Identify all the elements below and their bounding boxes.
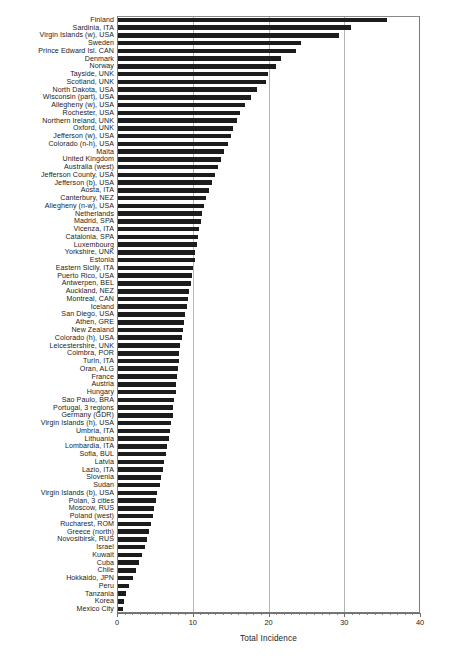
bar xyxy=(118,467,163,472)
bar-row: Allegheny (w), USA xyxy=(0,101,452,109)
bar-row: Korea xyxy=(0,597,452,605)
bar-row: Hokkaido, JPN xyxy=(0,574,452,582)
bar xyxy=(118,429,170,434)
bar-row: Netherlands xyxy=(0,210,452,218)
bar-row: Colorado (n-h), USA xyxy=(0,140,452,148)
bar xyxy=(118,41,301,46)
bar xyxy=(118,475,161,480)
bar-row: Kuwait xyxy=(0,551,452,559)
x-tick-label-20: 20 xyxy=(264,618,272,627)
bar-row: Mexico City xyxy=(0,605,452,613)
bar xyxy=(118,529,149,534)
bar-row: Jefferson (w), USA xyxy=(0,132,452,140)
bar-row: Australia (west) xyxy=(0,163,452,171)
bar-row: Montreal, CAN xyxy=(0,295,452,303)
bar xyxy=(118,591,126,596)
bar-row: Novosibirsk, RUS xyxy=(0,535,452,543)
bar xyxy=(118,584,129,589)
bar-row: Aosta, ITA xyxy=(0,187,452,195)
bar-row: Yorkshire, UNK xyxy=(0,249,452,257)
bar-row: Oxford, UNK xyxy=(0,125,452,133)
bar xyxy=(118,576,133,581)
bar-row: Madrid, SPA xyxy=(0,218,452,226)
bar xyxy=(118,111,240,116)
bar xyxy=(118,126,233,131)
bar xyxy=(118,64,276,69)
bar xyxy=(118,95,251,100)
bar xyxy=(118,599,124,604)
bar-row: Puerto Rico, USA xyxy=(0,272,452,280)
bar-row: Austria xyxy=(0,380,452,388)
bar xyxy=(118,483,160,488)
bar xyxy=(118,366,178,371)
bar xyxy=(118,196,206,201)
bar xyxy=(118,250,195,255)
bar-row: Virgin Islands (b), USA xyxy=(0,489,452,497)
x-axis-line xyxy=(117,613,420,614)
bar xyxy=(118,506,154,511)
bar-row: Umbria, ITA xyxy=(0,427,452,435)
x-axis-label: Total Incidence xyxy=(117,634,420,643)
bar xyxy=(118,413,173,418)
bar-row: Sardinia, ITA xyxy=(0,24,452,32)
bar-row: Auckland, NEZ xyxy=(0,287,452,295)
bar xyxy=(118,514,153,519)
bar xyxy=(118,343,180,348)
bar xyxy=(118,235,198,240)
bar xyxy=(118,211,202,216)
bar xyxy=(118,522,151,527)
bar-row: Latvia xyxy=(0,458,452,466)
bar xyxy=(118,304,187,309)
bar xyxy=(118,142,228,147)
bar-row: Eastern Sicily, ITA xyxy=(0,264,452,272)
bar xyxy=(118,328,183,333)
bar-row: Jefferson (b), USA xyxy=(0,179,452,187)
bar-chart: FinlandSardinia, ITAVirgin Islands (w), … xyxy=(0,0,452,666)
category-label: Mexico City xyxy=(77,605,114,613)
bar-row: Finland xyxy=(0,16,452,24)
bar xyxy=(118,49,296,54)
bar-row: Tayside, UNK xyxy=(0,70,452,78)
bar xyxy=(118,25,351,30)
x-tick-label-10: 10 xyxy=(189,618,197,627)
bar xyxy=(118,103,245,108)
bar-row: Chile xyxy=(0,566,452,574)
bar xyxy=(118,180,212,185)
tick-major-40 xyxy=(420,613,421,617)
bar xyxy=(118,188,209,193)
bar-row: Colorado (h), USA xyxy=(0,334,452,342)
bar-row: United Kingdom xyxy=(0,156,452,164)
bar xyxy=(118,72,268,77)
bar xyxy=(118,204,204,209)
bar-row: Greece (north) xyxy=(0,528,452,536)
bar xyxy=(118,281,191,286)
bar-row: Canterbury, NEZ xyxy=(0,194,452,202)
bar-row: Rochester, USA xyxy=(0,109,452,117)
bar-row: Denmark xyxy=(0,55,452,63)
bar xyxy=(118,398,174,403)
bar-row: Tanzania xyxy=(0,590,452,598)
bar-row: Turin, ITA xyxy=(0,357,452,365)
bar xyxy=(118,157,221,162)
bar xyxy=(118,436,169,441)
bar xyxy=(118,452,166,457)
bar xyxy=(118,607,123,612)
bar xyxy=(118,173,215,178)
bar-row: Sofia, BUL xyxy=(0,450,452,458)
bar xyxy=(118,568,136,573)
bar-row: Vicenza, ITA xyxy=(0,225,452,233)
bar xyxy=(118,560,139,565)
bar-row: Prince Edward Isl. CAN xyxy=(0,47,452,55)
bar-row: Norway xyxy=(0,63,452,71)
bar xyxy=(118,553,142,558)
x-tick-label-30: 30 xyxy=(340,618,348,627)
bar xyxy=(118,149,224,154)
bar xyxy=(118,297,188,302)
bar xyxy=(118,18,387,23)
bar-row: Cuba xyxy=(0,559,452,567)
bar-row: Hungary xyxy=(0,388,452,396)
bar xyxy=(118,382,176,387)
bar-row: New Zealand xyxy=(0,326,452,334)
bar-row: Oran, ALG xyxy=(0,365,452,373)
bar xyxy=(118,491,157,496)
